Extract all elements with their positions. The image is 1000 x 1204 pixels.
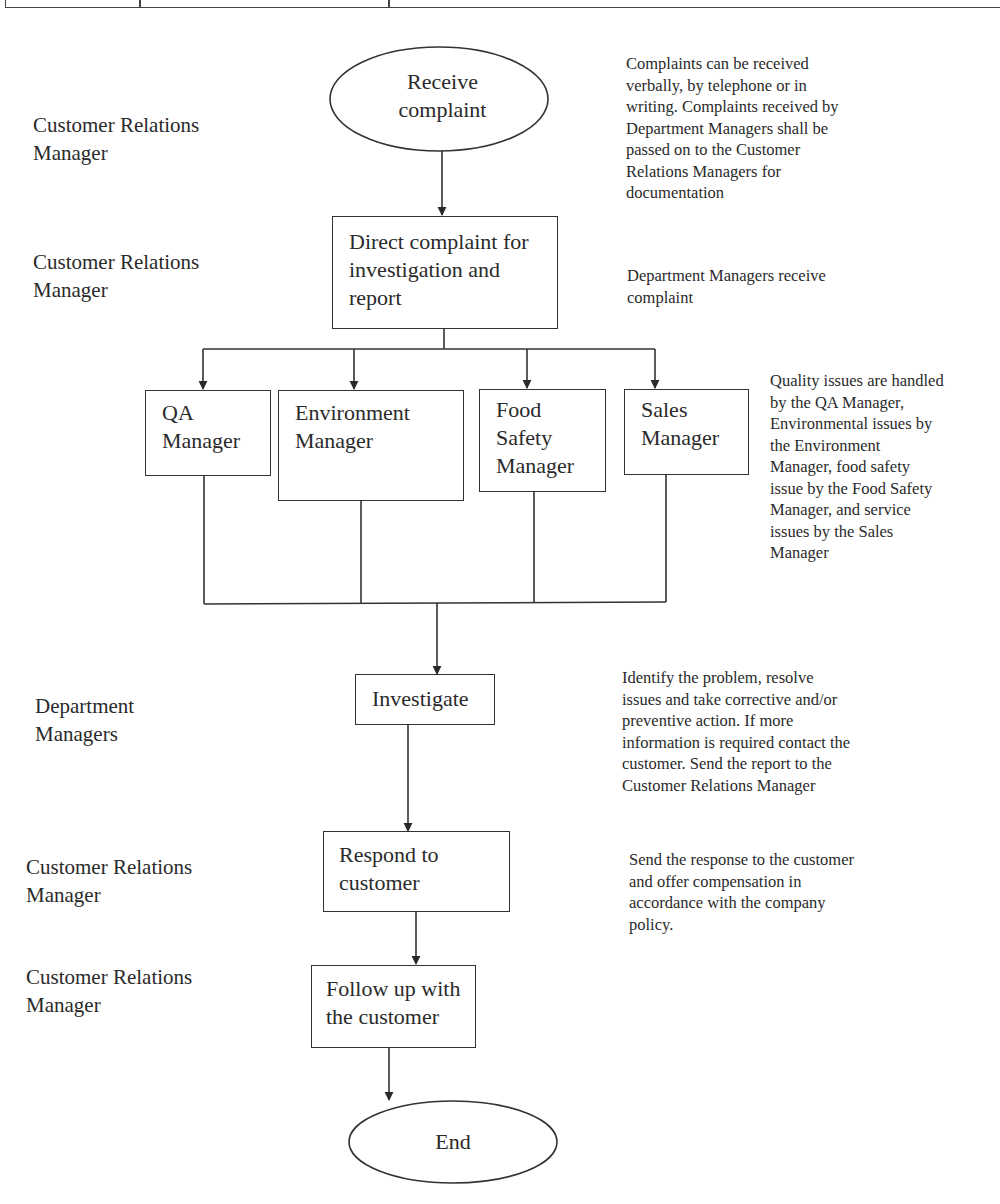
step-label: Investigate [372,686,469,711]
step-label: Follow up with the customer [326,976,460,1029]
role-label-direct: Customer Relations Manager [33,248,199,304]
role-label-respond: Customer Relations Manager [26,853,192,909]
start-receive-complaint: Receive complaint [360,68,525,124]
step-label: Respond to customer [339,842,439,895]
step-qa-manager: QA Manager [145,390,271,476]
step-environment-manager: Environment Manager [278,390,464,501]
role-text: Customer Relations Manager [26,855,192,907]
step-label: Environment Manager [295,400,410,453]
role-text: Department Managers [35,694,134,746]
step-sales-manager: Sales Manager [624,389,749,475]
role-label-investigate: Department Managers [35,692,134,748]
note-managers: Quality issues are handled by the QA Man… [770,370,1000,564]
step-food-safety-manager: Food Safety Manager [479,389,606,492]
note-respond: Send the response to the customer and of… [629,849,919,935]
end-label: End [435,1129,470,1154]
end-terminal: End [400,1128,506,1156]
step-investigate: Investigate [355,674,495,725]
note-direct: Department Managers receive complaint [627,265,887,308]
step-label: QA Manager [162,400,240,453]
note-receive: Complaints can be received verbally, by … [626,53,886,204]
start-label: Receive complaint [399,69,487,122]
step-respond-to-customer: Respond to customer [323,831,510,912]
role-text: Customer Relations Manager [33,113,199,165]
role-label-receive: Customer Relations Manager [33,111,199,167]
step-label: Food Safety Manager [496,397,574,478]
step-follow-up: Follow up with the customer [311,965,476,1048]
step-label: Sales Manager [641,397,719,450]
role-label-follow-up: Customer Relations Manager [26,963,192,1019]
step-direct-complaint: Direct complaint for investigation and r… [332,216,558,329]
role-text: Customer Relations Manager [26,965,192,1017]
role-text: Customer Relations Manager [33,250,199,302]
note-investigate: Identify the problem, resolve issues and… [622,667,912,796]
step-label: Direct complaint for investigation and r… [349,229,529,310]
